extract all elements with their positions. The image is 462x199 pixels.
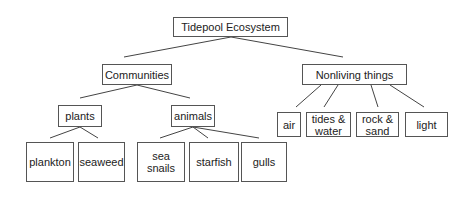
node-air: air (277, 112, 301, 137)
edge-root-to-nonliving (231, 37, 343, 57)
node-light: light (405, 112, 448, 137)
edge-nonliving-to-rock-sand (371, 85, 378, 107)
node-seaweed: seaweed (78, 142, 125, 182)
node-label: Nonliving things (316, 69, 394, 81)
node-label: seaweed (79, 156, 123, 168)
node-nonliving: Nonliving things (302, 64, 407, 85)
edge-nonliving-to-tides-water (324, 85, 338, 107)
node-label: air (283, 119, 295, 131)
edge-root-to-communities (124, 37, 231, 57)
node-tides-water: tides & water (306, 112, 351, 137)
node-label: Tidepool Ecosystem (181, 21, 280, 33)
edge-nonliving-to-air (296, 85, 321, 107)
node-rock-sand: rock & sand (356, 112, 399, 137)
node-animals: animals (171, 105, 215, 127)
node-label: plants (65, 110, 94, 122)
node-starfish: starfish (189, 142, 239, 182)
node-sea-snails: sea snails (137, 142, 185, 182)
edge-communities-to-animals (137, 85, 190, 98)
node-plants: plants (58, 105, 102, 127)
node-label: starfish (196, 156, 231, 168)
node-label: gulls (253, 156, 276, 168)
node-label: tides & water (312, 113, 346, 137)
node-label: sea snails (147, 150, 175, 174)
node-plankton: plankton (26, 142, 74, 182)
edge-plants-to-plankton (50, 127, 80, 138)
node-label: plankton (29, 156, 71, 168)
node-label: rock & sand (362, 113, 393, 137)
node-label: Communities (105, 69, 169, 81)
edge-communities-to-plants (80, 85, 137, 98)
node-communities: Communities (102, 64, 172, 85)
edge-plants-to-seaweed (80, 127, 98, 138)
edge-animals-to-gulls (193, 127, 259, 138)
node-gulls: gulls (241, 142, 287, 182)
node-root: Tidepool Ecosystem (173, 17, 288, 37)
edge-nonliving-to-light (390, 85, 424, 107)
node-label: light (416, 119, 436, 131)
edge-animals-to-sea-snails (160, 127, 193, 138)
node-label: animals (174, 110, 212, 122)
